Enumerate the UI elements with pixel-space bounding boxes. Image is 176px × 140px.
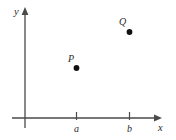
x-axis-label: x — [157, 122, 163, 133]
figure-canvas: P Q a b x y — [0, 0, 176, 140]
tick-label-a: a — [74, 123, 79, 134]
x-axis-arrow-icon — [154, 115, 162, 122]
coordinate-plane-figure: P Q a b x y — [0, 0, 176, 140]
y-axis-label: y — [13, 6, 19, 17]
point-label-q: Q — [119, 16, 127, 27]
tick-label-b: b — [127, 123, 132, 134]
point-label-p: P — [67, 53, 74, 64]
y-axis-arrow-icon — [22, 7, 29, 15]
data-point-q — [127, 29, 133, 35]
data-point-p — [74, 65, 80, 71]
